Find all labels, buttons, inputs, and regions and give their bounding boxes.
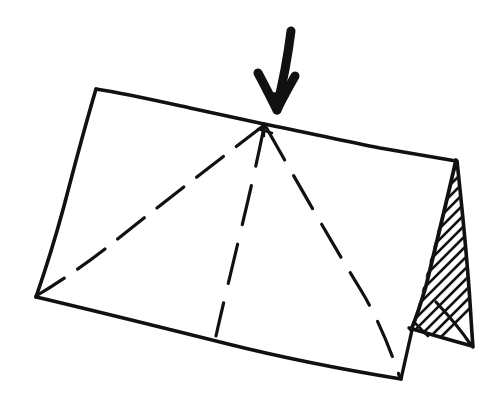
hatch-line bbox=[382, 220, 470, 308]
hatch-line bbox=[382, 198, 470, 286]
hatch-line bbox=[382, 264, 470, 352]
hatch-line bbox=[382, 176, 470, 264]
crease-left bbox=[36, 126, 263, 296]
end-panel-hatching bbox=[382, 143, 470, 396]
end-panel-triangle bbox=[382, 143, 473, 396]
arrow-head-tip bbox=[268, 94, 287, 111]
hatch-line bbox=[382, 308, 470, 396]
tent-sketch-svg bbox=[0, 0, 498, 408]
force-arrow bbox=[258, 31, 295, 111]
hatch-line bbox=[382, 165, 470, 253]
ridge-line-left-segment bbox=[96, 89, 264, 124]
hatch-line bbox=[382, 187, 470, 275]
front-panel-left-edge bbox=[36, 89, 96, 297]
sketch-canvas bbox=[0, 0, 498, 408]
crease-right bbox=[266, 127, 400, 378]
hatch-line bbox=[382, 286, 470, 374]
hatch-line bbox=[382, 231, 470, 319]
front-panel-bottom-edge bbox=[36, 297, 401, 379]
ridge-line-right-segment bbox=[264, 124, 456, 161]
end-panel-left-edge bbox=[411, 160, 456, 330]
front-panel bbox=[36, 89, 456, 379]
front-panel-right-base-stub bbox=[401, 330, 412, 379]
